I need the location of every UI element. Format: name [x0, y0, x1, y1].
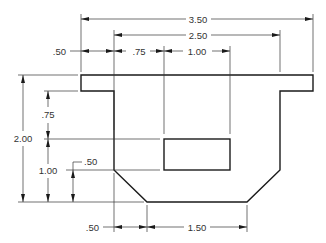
dim-label: 2.50: [189, 30, 208, 41]
dim-overall-width: 3.50: [81, 14, 313, 25]
dim-overall-height: 2.00: [14, 75, 33, 202]
dim-slot-height-from-base: 1.00: [39, 139, 58, 202]
dim-chamfer-width: .50: [86, 222, 147, 233]
dim-wall-to-slot: .75: [41, 91, 54, 139]
dim-label: 3.50: [189, 14, 208, 25]
dim-inner-width: 2.50: [114, 30, 280, 41]
dim-label: .50: [84, 156, 97, 167]
dim-label: .50: [53, 46, 66, 57]
extension-lines-left: [18, 75, 160, 202]
dim-label: 1.00: [39, 165, 58, 176]
dim-slot-width: 1.00: [164, 46, 230, 57]
dim-label: .50: [86, 222, 99, 233]
slot-outline: [164, 139, 230, 170]
dim-label: 1.50: [188, 222, 207, 233]
dim-base-width: 1.50: [147, 222, 247, 233]
dim-label: 1.00: [188, 46, 207, 57]
dim-label: .75: [41, 109, 54, 120]
technical-drawing: 3.50 2.50 .50 .75 1.00 2.00: [0, 0, 326, 243]
dim-slot-offset: .75: [114, 46, 164, 57]
dim-label: .75: [132, 46, 145, 57]
dim-chamfer-height: .50: [71, 156, 97, 202]
dim-label: 2.00: [14, 133, 33, 144]
dim-flange-overhang-left: .50: [53, 46, 114, 57]
